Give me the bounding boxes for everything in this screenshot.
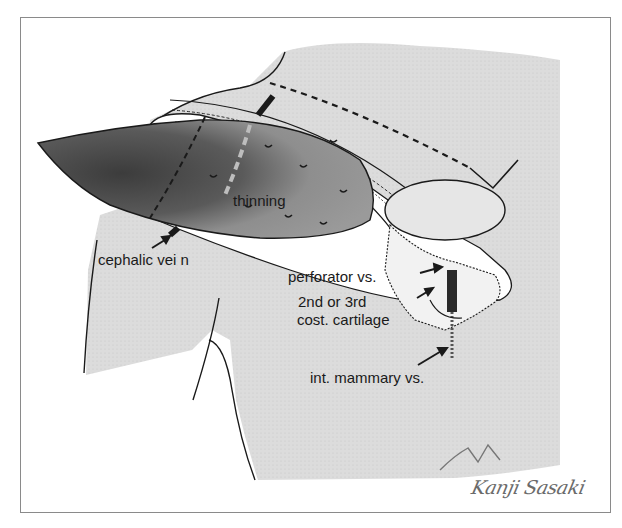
artist-signature: Kanji Sasaki [470, 476, 587, 498]
label-cephalic-vein: cephalic vei n [98, 252, 189, 267]
label-perforator: perforator vs. [288, 269, 376, 284]
label-thinning: thinning [233, 193, 286, 208]
perforator-vessel [447, 270, 457, 312]
label-internal-mammary: int. mammary vs. [310, 370, 424, 385]
label-rib-level-2: cost. cartilage [297, 312, 390, 327]
pectoral-mass [385, 180, 505, 240]
label-rib-level-1: 2nd or 3rd [298, 294, 366, 309]
chest-illustration [0, 0, 622, 528]
